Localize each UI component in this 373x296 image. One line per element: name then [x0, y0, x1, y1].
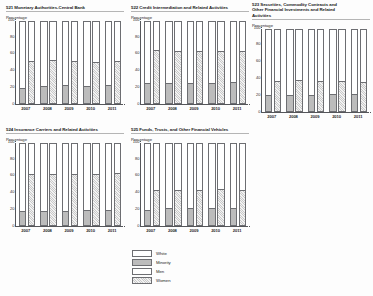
segment-minority — [266, 95, 272, 110]
chart-panel-naics-525: 525 Funds, Trusts, and Other Financial V… — [131, 127, 249, 234]
bar-gender-2011 — [239, 143, 247, 226]
legend-label: Men — [156, 269, 164, 274]
segment-women — [218, 51, 224, 102]
bar-race-2011 — [351, 29, 359, 112]
segment-minority — [166, 208, 172, 225]
white-swatch — [132, 250, 152, 258]
x-tick-label-2008: 2008 — [168, 106, 177, 111]
segment-minority — [209, 83, 215, 103]
segment-minority — [209, 208, 215, 225]
chart-panel-naics-524: 524 Insurance Carriers and Related Activ… — [6, 127, 124, 234]
segment-minority — [84, 210, 90, 224]
bar-race-2011 — [230, 143, 238, 226]
bar-race-2009 — [187, 21, 195, 104]
segment-minority — [287, 95, 293, 111]
plot-area: 020406080100 — [140, 143, 248, 227]
y-axis-label: Percentage — [131, 15, 249, 20]
chart-panel-naics-521: 521 Monetary Authorities-Central BankPer… — [6, 5, 124, 112]
bar-race-2008 — [40, 143, 48, 226]
minority-swatch — [132, 259, 152, 267]
x-tick-label-2008: 2008 — [168, 228, 177, 233]
x-tick-label-2009: 2009 — [311, 114, 320, 119]
bar-group-2010 — [81, 143, 103, 226]
bar-group-2009 — [59, 143, 81, 226]
bar-gender-2010 — [92, 143, 100, 226]
plot-area: 020406080100 — [15, 21, 123, 105]
bar-group-2011 — [102, 21, 124, 104]
bar-group-2007 — [141, 21, 163, 104]
bar-group-2007 — [262, 29, 284, 112]
segment-minority — [330, 94, 336, 111]
segment-minority — [231, 82, 237, 103]
bar-group-2010 — [206, 21, 228, 104]
bar-group-2009 — [305, 29, 327, 112]
bar-group-2009 — [59, 21, 81, 104]
legend-item-white: White — [132, 249, 171, 258]
x-axis-labels: 20072008200920102011 — [261, 113, 369, 120]
bar-gender-2007 — [28, 21, 36, 104]
segment-minority — [166, 83, 172, 102]
x-tick-label-2008: 2008 — [43, 106, 52, 111]
segment-women — [218, 189, 224, 224]
legend-item-men: Men — [132, 267, 171, 276]
segment-minority — [63, 85, 69, 103]
x-tick-label-2010: 2010 — [86, 228, 95, 233]
bar-race-2009 — [62, 21, 70, 104]
segment-minority — [352, 94, 358, 111]
y-tick-mark — [140, 19, 141, 20]
segment-women — [175, 190, 181, 224]
y-axis-label: Percentage — [131, 137, 249, 142]
bar-race-2008 — [286, 29, 294, 112]
bar-gender-2007 — [153, 21, 161, 104]
x-tick-label-2007: 2007 — [146, 106, 155, 111]
bar-gender-2009 — [196, 143, 204, 226]
bar-group-2008 — [38, 143, 60, 226]
y-tick-mark — [15, 141, 16, 142]
x-tick-label-2009: 2009 — [190, 228, 199, 233]
bar-race-2010 — [83, 143, 91, 226]
x-tick-label-2011: 2011 — [354, 114, 363, 119]
segment-minority — [20, 88, 26, 103]
x-tick-label-2007: 2007 — [21, 228, 30, 233]
x-tick-label-2010: 2010 — [211, 228, 220, 233]
multi-panel-chart-figure: 521 Monetary Authorities-Central BankPer… — [0, 0, 373, 296]
segment-women — [115, 173, 121, 224]
segment-minority — [231, 208, 237, 225]
plot-area: 020406080100 — [140, 21, 248, 105]
panel-title: 525 Funds, Trusts, and Other Financial V… — [131, 127, 249, 134]
y-axis-label: Percentage — [252, 23, 370, 28]
segment-women — [175, 51, 181, 103]
segment-women — [29, 174, 35, 224]
women-swatch — [132, 277, 152, 285]
bar-group-2008 — [163, 21, 185, 104]
segment-minority — [41, 86, 47, 103]
x-tick-label-2009: 2009 — [65, 106, 74, 111]
bar-race-2011 — [105, 143, 113, 226]
bar-group-2008 — [38, 21, 60, 104]
bar-gender-2008 — [49, 21, 57, 104]
bar-race-2010 — [208, 21, 216, 104]
x-axis-labels: 20072008200920102011 — [15, 227, 123, 234]
bar-race-2009 — [187, 143, 195, 226]
bar-group-2009 — [184, 21, 206, 104]
segment-minority — [145, 83, 151, 102]
bar-gender-2010 — [217, 21, 225, 104]
panel-title: 524 Insurance Carriers and Related Activ… — [6, 127, 124, 134]
bar-race-2008 — [165, 143, 173, 226]
y-axis-label: Percentage — [6, 15, 124, 20]
bar-group-2009 — [184, 143, 206, 226]
bar-race-2007 — [144, 143, 152, 226]
segment-women — [93, 62, 99, 103]
segment-minority — [20, 211, 26, 224]
bar-race-2010 — [329, 29, 337, 112]
segment-women — [197, 51, 203, 103]
segment-minority — [106, 210, 112, 225]
segment-women — [50, 174, 56, 224]
x-tick-mark — [249, 104, 250, 105]
segment-women — [339, 81, 345, 110]
bar-gender-2009 — [71, 21, 79, 104]
x-tick-label-2010: 2010 — [86, 106, 95, 111]
bar-group-2008 — [163, 143, 185, 226]
bar-group-2008 — [284, 29, 306, 112]
panel-title: 521 Monetary Authorities-Central Bank — [6, 5, 124, 12]
